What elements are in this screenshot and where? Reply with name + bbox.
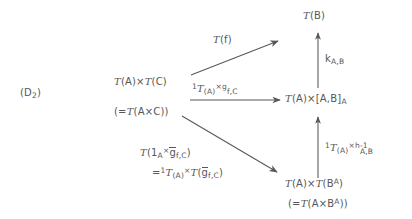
node-br-l1-T2: T: [316, 178, 323, 189]
label-h-TAsub: (A): [337, 146, 349, 155]
node-T-A-x-T-C: T(A)×T(C): [114, 76, 167, 89]
diagram-tag-open: (D: [20, 87, 32, 98]
label-Tf-T: T: [213, 34, 220, 45]
label-gbar-l1-T: T: [140, 147, 147, 158]
node-left-l2-open: (=: [114, 106, 127, 117]
label-arrow-T-1A-times-gbar-line1: T(1A×gf,C): [140, 147, 191, 160]
node-left-l2-T: T: [127, 106, 134, 117]
diagram-tag: (D2): [20, 87, 41, 100]
node-br-l2-close: )): [340, 198, 348, 209]
label-g-T: T: [197, 83, 204, 94]
label-arrow-T-1A-times-gbar-line2: =1T(A)×T(gf,C): [152, 167, 223, 180]
label-g-TAsub: (A): [204, 87, 216, 96]
node-left-l2-arg: (A×C)): [134, 106, 169, 117]
node-left-l1-argc: (C): [152, 76, 167, 87]
label-gbar-l2-fc: f,C: [208, 171, 219, 180]
node-left-l1-T1: T: [114, 76, 121, 87]
label-g-fc: f,C: [227, 87, 238, 96]
label-arrow-1TA-times-g: 1T(A)×gf,C: [192, 83, 238, 96]
node-T-A-x-C-equiv: (=T(A×C)): [114, 106, 169, 119]
label-h-times-h: ×h: [348, 141, 359, 150]
node-T-A-x-BA-equiv: (=T(A×BA)): [288, 198, 348, 211]
label-gbar-l2-close: ): [219, 167, 223, 178]
node-br-l2-T: T: [301, 198, 308, 209]
node-br-l1-argx: (A)×: [292, 178, 316, 189]
label-arrow-1TA-times-h-inv: 1T(A)×h -1 A,B: [325, 142, 360, 155]
node-br-l1-close: ): [339, 178, 343, 189]
node-T-B: T(B): [303, 10, 325, 23]
node-T-B-arg: (B): [310, 10, 325, 21]
arrow-T-f: [191, 41, 278, 75]
label-h-T: T: [330, 142, 337, 153]
node-left-l1-argx: (A)×: [121, 76, 145, 87]
diagram-tag-close: ): [37, 87, 41, 98]
node-left-l1-T2: T: [145, 76, 152, 87]
label-k-sub: A,B: [331, 57, 344, 66]
node-T-A-x-T-BA: T(A)×T(BA): [285, 178, 343, 191]
diagram-canvas: (D2) T(B) T(A)×T(C) (=T(A×C)) T(A)×[A,B]…: [0, 0, 412, 219]
label-g-times-g: ×g: [215, 82, 226, 91]
label-arrow-T-f: T(f): [213, 34, 232, 47]
arrow-T-1A-times-gbar: [182, 116, 277, 172]
node-br-l2-open: (=: [288, 198, 301, 209]
node-br-l1-B: (B: [323, 178, 334, 189]
arrow-layer: [0, 0, 412, 219]
label-arrow-k-AB: kA,B: [325, 53, 344, 66]
label-gbar-l2-TAsub: (A): [172, 171, 184, 180]
node-T-A-x-AB-A: T(A)×[A,B]A: [285, 93, 347, 106]
node-mr-T: T: [285, 93, 292, 104]
node-br-l2-arg: (A×B: [308, 198, 335, 209]
node-T-B-functor: T: [303, 10, 310, 21]
node-mr-body: (A)×[A,B]: [292, 93, 342, 104]
label-gbar-l1-fc: f,C: [176, 151, 187, 160]
label-gbar-l1-open1: (1: [147, 147, 158, 158]
node-br-l1-T1: T: [285, 178, 292, 189]
label-Tf-arg: (f): [220, 34, 232, 45]
node-mr-sub: A: [341, 97, 346, 106]
label-gbar-l1-close: ): [187, 147, 191, 158]
label-gbar-l2-eq: =: [152, 167, 161, 178]
